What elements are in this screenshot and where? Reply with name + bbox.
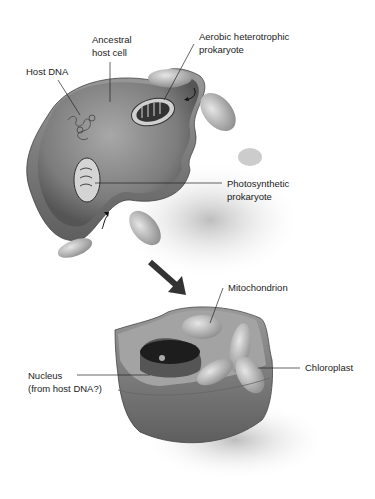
- free-organelle: [148, 69, 192, 87]
- eukaryotic-cell: [115, 307, 330, 480]
- label-chloroplast: Chloroplast: [305, 362, 353, 375]
- ancestral-host-cell: [27, 69, 305, 280]
- label-nucleus: Nucleus (from host DNA?): [28, 370, 102, 395]
- label-host-dna: Host DNA: [26, 66, 68, 79]
- label-photosynthetic-prokaryote: Photosynthetic prokaryote: [227, 178, 289, 203]
- nucleus: [140, 338, 201, 377]
- label-aerobic-prokaryote: Aerobic heterotrophic prokaryote: [199, 31, 289, 56]
- endosymbiosis-diagram: Ancestral host cell Host DNA Aerobic het…: [0, 0, 375, 499]
- label-ancestral-host-cell: Ancestral host cell: [92, 34, 132, 59]
- mitochondrion: [182, 315, 222, 339]
- label-mitochondrion: Mitochondrion: [228, 282, 288, 295]
- free-organelle: [238, 148, 262, 166]
